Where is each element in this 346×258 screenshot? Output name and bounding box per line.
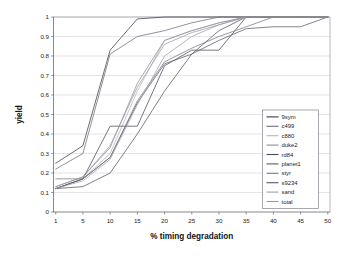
y-tick-label: 1 (46, 13, 50, 20)
x-tick-label: 35 (243, 217, 250, 224)
x-tick-label: 30 (216, 217, 223, 224)
x-tick-label: 40 (270, 217, 277, 224)
x-tick-label: 1 (54, 217, 58, 224)
y-tick-label: 0.3 (40, 150, 49, 157)
y-tick-label: 0.7 (40, 72, 49, 79)
legend: 9symc499c880duke2rd84planet1styrs9234san… (263, 110, 319, 209)
legend-label-c880: c880 (282, 133, 295, 139)
legend-label-planet1: planet1 (282, 161, 301, 167)
y-tick-label: 0.9 (40, 33, 49, 40)
x-tick-label: 25 (188, 217, 195, 224)
legend-label-styr: styr (282, 170, 292, 176)
legend-label-c499: c499 (282, 123, 295, 129)
x-tick-label: 5 (81, 217, 85, 224)
y-axis-ticks: 00.10.20.30.40.50.60.70.80.91 (40, 13, 53, 215)
y-axis-title: yield (15, 105, 24, 124)
x-tick-label: 15 (134, 217, 141, 224)
y-tick-label: 0 (46, 208, 50, 215)
y-tick-label: 0.1 (40, 189, 49, 196)
legend-label-total: total (282, 199, 293, 205)
chart-figure: 15101520253035404550 00.10.20.30.40.50.6… (0, 0, 346, 258)
line-chart: 15101520253035404550 00.10.20.30.40.50.6… (0, 0, 346, 258)
y-tick-label: 0.2 (40, 169, 49, 176)
legend-label-s9234: s9234 (282, 180, 299, 186)
x-tick-label: 20 (161, 217, 168, 224)
y-tick-label: 0.5 (40, 111, 49, 118)
x-tick-label: 50 (324, 217, 331, 224)
x-axis-ticks: 15101520253035404550 (54, 212, 332, 224)
legend-label-sand: sand (282, 189, 295, 195)
y-tick-label: 0.6 (40, 91, 49, 98)
y-tick-label: 0.8 (40, 52, 49, 59)
x-tick-label: 45 (297, 217, 304, 224)
x-axis-title: % timing degradation (150, 232, 233, 241)
legend-label-rd84: rd84 (282, 152, 295, 158)
legend-label-9sym: 9sym (282, 114, 296, 120)
x-tick-label: 10 (107, 217, 114, 224)
y-tick-label: 0.4 (40, 130, 49, 137)
legend-label-duke2: duke2 (282, 142, 298, 148)
